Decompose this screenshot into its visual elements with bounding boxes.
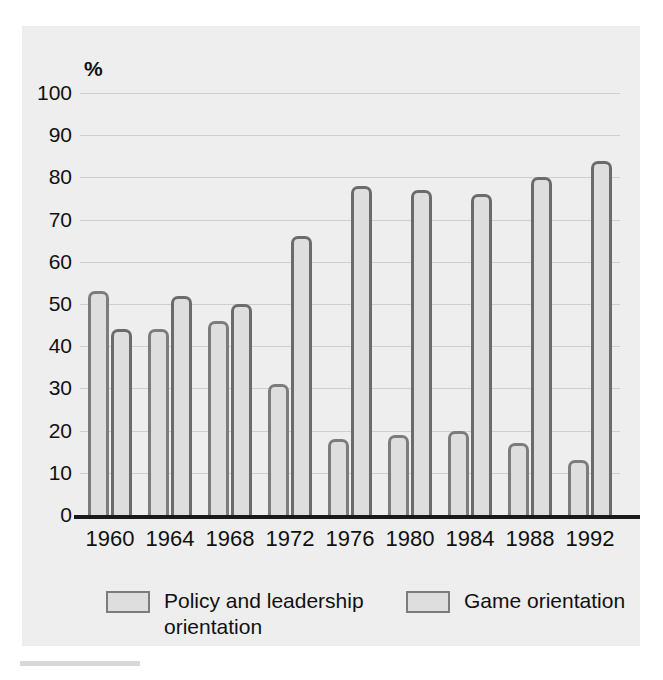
legend-item-policy: Policy and leadership orientation <box>106 588 386 640</box>
bar-game-1976 <box>351 186 372 515</box>
page-artifact-strip <box>20 661 140 666</box>
bar-game-1968 <box>231 304 252 515</box>
bar-policy-1992 <box>568 460 589 515</box>
y-axis-tick: 10 <box>26 461 72 485</box>
gridline <box>80 93 620 94</box>
x-axis-tick-labels: 196019641968197219761980198419881992 <box>80 526 620 560</box>
y-axis-tick-labels: 1009080706050403020100 <box>22 93 72 515</box>
bar-game-1960 <box>111 329 132 515</box>
x-axis-tick-1976: 1976 <box>326 526 375 552</box>
bar-policy-1984 <box>448 431 469 515</box>
y-axis-tick: 90 <box>26 123 72 147</box>
y-axis-tick: 80 <box>26 165 72 189</box>
plot-area <box>80 93 620 515</box>
bar-policy-1976 <box>328 439 349 515</box>
y-axis-tick: 60 <box>26 250 72 274</box>
bar-policy-1972 <box>268 384 289 515</box>
x-axis-tick-1980: 1980 <box>386 526 435 552</box>
x-axis-tick-1992: 1992 <box>566 526 615 552</box>
y-axis-tick: 100 <box>26 81 72 105</box>
bar-game-1972 <box>291 236 312 515</box>
y-axis-unit-label: % <box>84 57 103 81</box>
y-axis-tick: 40 <box>26 334 72 358</box>
bar-game-1984 <box>471 194 492 515</box>
bar-game-1988 <box>531 177 552 515</box>
chart-legend: Policy and leadership orientation Game o… <box>106 588 626 648</box>
legend-item-label: Game orientation <box>464 588 625 614</box>
x-axis-tick-1984: 1984 <box>446 526 495 552</box>
bar-policy-1988 <box>508 443 529 515</box>
y-axis-tick: 0 <box>26 503 72 527</box>
x-axis-tick-1964: 1964 <box>146 526 195 552</box>
x-axis-line <box>74 515 640 519</box>
bar-game-1980 <box>411 190 432 515</box>
legend-item-game: Game orientation <box>406 588 626 614</box>
chart-figure-panel: % 1009080706050403020100 196019641968197… <box>22 26 640 646</box>
bar-policy-1980 <box>388 435 409 515</box>
legend-swatch-icon <box>106 591 150 613</box>
bar-policy-1968 <box>208 321 229 515</box>
bar-game-1992 <box>591 161 612 515</box>
legend-swatch-icon <box>406 591 450 613</box>
x-axis-tick-1972: 1972 <box>266 526 315 552</box>
legend-item-label: Policy and leadership orientation <box>164 588 386 640</box>
x-axis-tick-1960: 1960 <box>86 526 135 552</box>
y-axis-tick: 20 <box>26 419 72 443</box>
x-axis-tick-1968: 1968 <box>206 526 255 552</box>
gridline <box>80 135 620 136</box>
bar-game-1964 <box>171 296 192 515</box>
y-axis-tick: 30 <box>26 376 72 400</box>
y-axis-tick: 70 <box>26 208 72 232</box>
x-axis-tick-1988: 1988 <box>506 526 555 552</box>
bar-policy-1964 <box>148 329 169 515</box>
y-axis-tick: 50 <box>26 292 72 316</box>
bar-policy-1960 <box>88 291 109 515</box>
